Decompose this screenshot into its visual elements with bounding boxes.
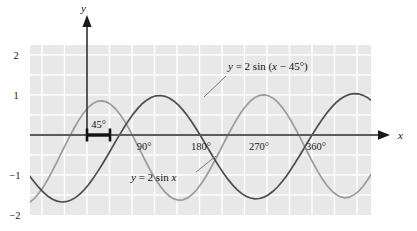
x-tick-label-90: 90°: [137, 141, 152, 152]
y-axis-label: y: [80, 2, 86, 14]
y-tick-label-neg1: −1: [9, 170, 20, 181]
trig-graph-figure: x y 2 1 −1 −2 90° 180° 270° 360° 45° y =…: [0, 0, 417, 231]
y-tick-label-neg2: −2: [9, 210, 20, 221]
phase-shift-label: 45°: [91, 119, 106, 130]
plot-area-background: [30, 45, 371, 215]
x-tick-label-630: 360°: [306, 141, 326, 152]
y-tick-label-2: 2: [13, 50, 18, 61]
y-axis-arrowhead: [82, 15, 91, 27]
x-tick-label-270: 270°: [249, 141, 269, 152]
shifted-sine-label: y = 2 sin (x − 45°): [227, 60, 308, 73]
base-sine-label: y = 2 sin x: [130, 171, 176, 183]
x-tick-label-180: 180°: [191, 141, 211, 152]
x-axis-label: x: [397, 129, 403, 141]
x-axis-arrowhead: [378, 130, 390, 140]
y-tick-label-1: 1: [13, 90, 18, 101]
